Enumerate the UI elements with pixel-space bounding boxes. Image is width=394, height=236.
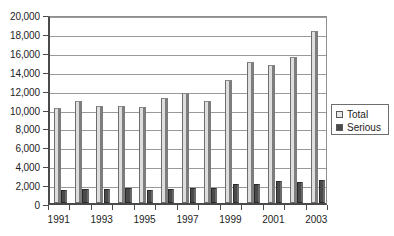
x-tick-label-1993: 1993 <box>91 214 113 225</box>
bar-total-1997 <box>182 93 189 203</box>
x-tick-mark <box>155 205 156 210</box>
x-axis: 1991199319951997199920012003 <box>48 205 327 236</box>
y-tick-label: 12,000 <box>10 86 40 97</box>
legend-label-total: Total <box>347 109 368 120</box>
x-tick-label-2001: 2001 <box>262 214 284 225</box>
y-tick-label: 14,000 <box>10 67 40 78</box>
x-tick-mark <box>112 205 113 210</box>
y-tick-label: 8,000 <box>15 124 40 135</box>
bar-serious-1993 <box>104 189 110 203</box>
legend-item-serious[interactable]: Serious <box>336 121 388 134</box>
bar-serious-1998 <box>211 188 217 203</box>
x-tick-mark <box>327 205 328 210</box>
bar-serious-2002 <box>297 182 303 203</box>
bar-total-1991 <box>54 108 61 203</box>
x-tick-mark <box>284 205 285 210</box>
legend-label-serious: Serious <box>347 122 381 133</box>
y-axis: 02,0004,0006,0008,00010,00012,00014,0001… <box>0 0 48 205</box>
bar-total-1999 <box>225 80 232 203</box>
bar-serious-2003 <box>319 180 325 203</box>
x-tick-mark <box>306 205 307 210</box>
x-tick-label-1999: 1999 <box>219 214 241 225</box>
y-tick-label: 0 <box>35 200 40 211</box>
bar-serious-2000 <box>254 184 260 203</box>
x-tick-mark <box>198 205 199 210</box>
legend-swatch-total-icon <box>336 111 343 118</box>
legend-item-total[interactable]: Total <box>336 108 388 121</box>
bar-chart: 02,0004,0006,0008,00010,00012,00014,0001… <box>0 0 394 236</box>
bar-total-1998 <box>204 101 211 203</box>
x-tick-mark <box>263 205 264 210</box>
plot-area <box>48 16 327 205</box>
bar-total-1992 <box>75 101 82 203</box>
bar-serious-1997 <box>190 188 196 203</box>
x-tick-mark <box>241 205 242 210</box>
y-tick-label: 18,000 <box>10 29 40 40</box>
y-tick-label: 20,000 <box>10 11 40 22</box>
bar-serious-1996 <box>168 189 174 203</box>
y-tick-label: 4,000 <box>15 162 40 173</box>
y-tick-label: 16,000 <box>10 48 40 59</box>
x-tick-mark <box>69 205 70 210</box>
x-tick-mark <box>48 205 49 210</box>
bar-total-1994 <box>118 106 125 203</box>
x-tick-mark <box>177 205 178 210</box>
bar-total-2002 <box>290 57 297 203</box>
bar-total-1996 <box>161 98 168 203</box>
bar-total-2000 <box>247 62 254 203</box>
bar-total-2001 <box>268 65 275 203</box>
legend-swatch-serious-icon <box>336 124 343 131</box>
x-tick-label-1991: 1991 <box>48 214 70 225</box>
bar-serious-1995 <box>147 190 153 203</box>
x-tick-mark <box>91 205 92 210</box>
y-tick-label: 10,000 <box>10 105 40 116</box>
x-tick-label-1997: 1997 <box>176 214 198 225</box>
x-tick-mark <box>220 205 221 210</box>
bar-total-1993 <box>96 106 103 203</box>
bars-layer <box>50 17 326 203</box>
x-tick-label-2003: 2003 <box>305 214 327 225</box>
bar-serious-1999 <box>233 184 239 203</box>
y-tick-label: 2,000 <box>15 181 40 192</box>
bar-total-1995 <box>139 107 146 203</box>
chart-legend: Total Serious <box>331 104 389 135</box>
x-tick-mark <box>134 205 135 210</box>
bar-serious-1992 <box>82 189 88 203</box>
bar-serious-1994 <box>125 188 131 203</box>
x-tick-label-1995: 1995 <box>133 214 155 225</box>
y-tick-label: 6,000 <box>15 143 40 154</box>
bar-serious-1991 <box>61 190 67 203</box>
bar-total-2003 <box>311 31 318 203</box>
bar-serious-2001 <box>276 181 282 203</box>
